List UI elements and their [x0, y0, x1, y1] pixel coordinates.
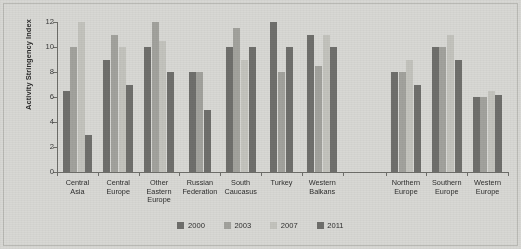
bar	[85, 135, 92, 173]
bar	[241, 60, 248, 173]
bar	[233, 28, 240, 172]
x-tick-mark	[57, 172, 58, 176]
bar	[488, 91, 495, 172]
bar-group	[426, 22, 467, 172]
bar	[70, 47, 77, 172]
legend-label: 2003	[234, 221, 251, 230]
bar	[447, 35, 454, 173]
x-axis-category-label: Western Europe	[467, 179, 508, 196]
bar	[323, 35, 330, 173]
x-axis-category-label: Central Europe	[98, 179, 139, 196]
y-tick-label: 2	[50, 142, 54, 151]
x-tick-mark	[386, 172, 387, 176]
legend-swatch-icon	[270, 222, 277, 229]
legend-label: 2011	[327, 221, 343, 230]
bar	[439, 47, 446, 172]
bar	[414, 85, 421, 173]
bar	[406, 60, 413, 173]
bar	[307, 35, 314, 173]
bar	[315, 66, 322, 172]
y-axis-title: Activity Stringency Index	[24, 0, 33, 135]
bar-group	[386, 22, 427, 172]
bar	[249, 47, 256, 172]
y-tick-label: 10	[46, 42, 54, 51]
bar-group	[261, 22, 302, 172]
bar	[399, 72, 406, 172]
bar	[167, 72, 174, 172]
legend-item[interactable]: 2011	[317, 221, 344, 230]
bar	[278, 72, 285, 172]
bar-group	[179, 22, 220, 172]
x-tick-mark	[98, 172, 99, 176]
y-tick-label: 6	[50, 92, 54, 101]
x-tick-mark	[179, 172, 180, 176]
bar-group	[467, 22, 508, 172]
legend-item[interactable]: 2007	[270, 221, 297, 230]
bar	[78, 22, 85, 172]
bar	[270, 22, 277, 172]
chart-legend: 2000200320072011	[0, 221, 521, 230]
bar	[144, 47, 151, 172]
bar	[189, 72, 196, 172]
x-axis-category-label: Central Asia	[57, 179, 98, 196]
bar-group	[98, 22, 139, 172]
legend-swatch-icon	[224, 222, 231, 229]
bar	[432, 47, 439, 172]
x-axis-category-label: Northern Europe	[386, 179, 427, 196]
legend-label: 2007	[281, 221, 298, 230]
x-tick-mark	[139, 172, 140, 176]
bar	[152, 22, 159, 172]
x-tick-mark	[426, 172, 427, 176]
x-axis-category-label: Other Eastern Europe	[139, 179, 180, 205]
bar	[204, 110, 211, 173]
y-tick-label: 12	[46, 17, 54, 26]
legend-item[interactable]: 2000	[177, 221, 204, 230]
x-tick-mark	[508, 172, 509, 176]
bar-group	[139, 22, 180, 172]
bar	[159, 41, 166, 172]
x-tick-mark	[467, 172, 468, 176]
bar	[111, 35, 118, 173]
bar-chart-figure: Activity Stringency Index 024681012 Cent…	[0, 0, 521, 249]
plot-area: 024681012 Central AsiaCentral EuropeOthe…	[57, 22, 508, 172]
bar-group	[302, 22, 343, 172]
bar	[103, 60, 110, 173]
bar	[473, 97, 480, 172]
bar	[126, 85, 133, 173]
y-tick-label: 8	[50, 67, 54, 76]
bar	[119, 47, 126, 172]
bar	[391, 72, 398, 172]
legend-item[interactable]: 2003	[224, 221, 251, 230]
x-axis-category-label: Western Balkans	[302, 179, 343, 196]
legend-swatch-icon	[317, 222, 324, 229]
bar	[196, 72, 203, 172]
x-tick-mark	[302, 172, 303, 176]
bar-group	[220, 22, 261, 172]
x-tick-mark	[220, 172, 221, 176]
bar	[63, 91, 70, 172]
bar	[330, 47, 337, 172]
x-axis-line	[57, 172, 508, 173]
bar	[226, 47, 233, 172]
bar	[286, 47, 293, 172]
x-tick-mark	[261, 172, 262, 176]
bar	[455, 60, 462, 173]
legend-swatch-icon	[177, 222, 184, 229]
x-axis-category-label: South Caucasus	[220, 179, 261, 196]
bar	[495, 95, 502, 173]
bar	[480, 97, 487, 172]
x-axis-category-label: Southern Europe	[426, 179, 467, 196]
x-axis-category-label: Russian Federation	[179, 179, 220, 196]
legend-label: 2000	[188, 221, 205, 230]
y-tick-label: 0	[50, 167, 54, 176]
bar-group	[57, 22, 98, 172]
x-tick-mark	[343, 172, 344, 176]
x-axis-category-label: Turkey	[261, 179, 302, 188]
y-tick-label: 4	[50, 117, 54, 126]
